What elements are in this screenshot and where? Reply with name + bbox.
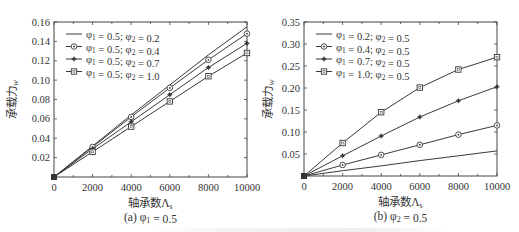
- y-tick-label: 0.25: [282, 61, 300, 72]
- y-tick-label: 0.06: [32, 113, 50, 124]
- y-axis-label: 承载力w: [262, 79, 276, 118]
- x-tick-label: 8000: [448, 181, 469, 192]
- y-tick-label: 0.16: [32, 17, 50, 28]
- y-tick-label: 0.12: [32, 55, 50, 66]
- origin-marker: [301, 173, 307, 179]
- x-tick-label: 2000: [82, 182, 103, 193]
- series-line: [304, 151, 497, 176]
- y-tick-label: 0.04: [32, 133, 51, 144]
- chart-panel-b: 02000400060008000100000.050.100.150.200.…: [260, 0, 519, 229]
- square-marker: [90, 149, 95, 154]
- panel-subtitle: (b) φ2 = 0.5: [374, 210, 428, 224]
- square-marker: [71, 69, 76, 74]
- y-tick-label: 0.14: [32, 36, 51, 47]
- square-marker: [167, 99, 172, 104]
- series-4: [54, 50, 250, 177]
- y-tick-label: 0.15: [282, 105, 300, 116]
- square-marker: [494, 55, 499, 60]
- square-marker: [321, 69, 326, 74]
- x-tick-label: 2000: [332, 181, 353, 192]
- x-tick-label: 8000: [198, 182, 219, 193]
- x-tick-label: 10000: [484, 181, 510, 192]
- y-axis-label: 承载力w: [6, 80, 20, 119]
- x-tick-label: 0: [51, 182, 56, 193]
- legend: φ1 = 0.2; φ2 = 0.5φ1 = 0.4; φ2 = 0.5φ1 =…: [316, 29, 410, 82]
- legend-entry: φ1 = 0.5; φ2 = 0.2: [86, 29, 160, 44]
- series-3: [304, 84, 500, 176]
- x-tick-label: 6000: [159, 182, 180, 193]
- square-marker: [206, 74, 211, 79]
- y-tick-label: 0.30: [282, 39, 300, 50]
- x-tick-label: 4000: [371, 181, 392, 192]
- square-marker: [456, 67, 461, 72]
- y-tick-label: 0.35: [282, 17, 300, 28]
- series-2: [304, 123, 500, 176]
- y-tick-label: 0.08: [32, 94, 50, 105]
- y-tick-label: 0.02: [32, 152, 50, 163]
- square-marker: [379, 110, 384, 115]
- square-marker: [340, 140, 345, 145]
- legend-entry: φ1 = 0.2; φ2 = 0.5: [336, 29, 410, 44]
- square-marker: [244, 50, 249, 55]
- x-axis-label: 轴承数Λs: [378, 195, 422, 210]
- y-tick-label: 0.20: [282, 83, 300, 94]
- chart-panel-a: 02000400060008000100000.020.040.060.080.…: [0, 0, 260, 229]
- origin-marker: [51, 174, 57, 180]
- line-chart-a: 02000400060008000100000.020.040.060.080.…: [0, 0, 260, 225]
- square-marker: [417, 85, 422, 90]
- x-tick-label: 10000: [234, 182, 260, 193]
- panel-subtitle: (a) φ1 = 0.5: [124, 211, 177, 225]
- x-tick-label: 4000: [121, 182, 142, 193]
- y-tick-label: 0.05: [282, 149, 300, 160]
- series-1: [304, 151, 497, 176]
- y-tick-label: 0.10: [32, 75, 50, 86]
- square-marker: [129, 124, 134, 129]
- x-axis-label: 轴承数Λs: [128, 196, 172, 211]
- legend: φ1 = 0.5; φ2 = 0.2φ1 = 0.5; φ2 = 0.4φ1 =…: [66, 29, 160, 82]
- x-tick-label: 0: [301, 181, 306, 192]
- x-tick-label: 6000: [409, 181, 430, 192]
- y-tick-label: 0.10: [282, 127, 300, 138]
- figure-caption-clipped: [150, 228, 450, 232]
- line-chart-b: 02000400060008000100000.050.100.150.200.…: [260, 0, 519, 225]
